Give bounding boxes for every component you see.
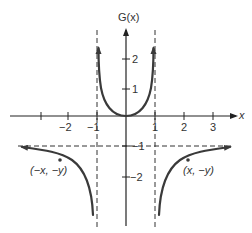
point-right-label: (x, −y) (183, 164, 214, 176)
right-branch (159, 147, 230, 215)
center-branch-left (99, 48, 127, 116)
asymptotes (18, 30, 232, 228)
x-tick-label-neg2: −2 (59, 121, 72, 133)
left-branch (22, 147, 93, 215)
x-tick-label-1: 1 (152, 121, 158, 133)
x-tick-label-2: 2 (181, 121, 187, 133)
y-tick-label-neg1: −1 (132, 140, 145, 152)
y-tick-label-1: 1 (132, 83, 138, 95)
point-left-label: (−x, −y) (30, 164, 68, 176)
y-tick-label-neg2: −2 (130, 171, 143, 183)
y-tick-label-2: 2 (132, 53, 138, 65)
x-tick-label-3: 3 (210, 121, 216, 133)
point-right-marker (186, 158, 190, 162)
y-axis-label: G(x) (118, 11, 139, 23)
point-left-marker (58, 158, 62, 162)
x-tick-label-neg1: −1 (87, 121, 100, 133)
x-axis-label: x (238, 109, 245, 121)
graph-canvas: G(x) x −2 −1 1 2 3 2 1 −1 −2 (−x, −y) (x… (0, 0, 252, 233)
center-branch-right (126, 48, 154, 116)
